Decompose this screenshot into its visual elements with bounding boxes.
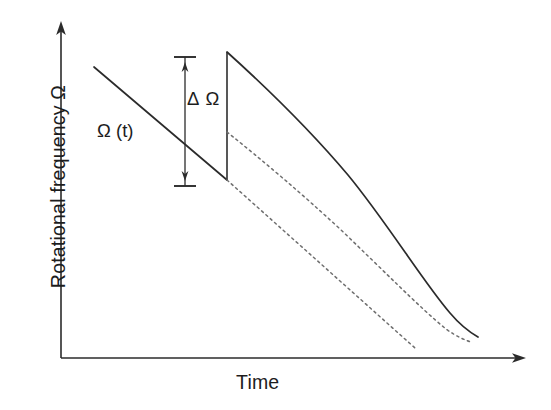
pre-glitch-extrapolation-dashed <box>227 180 415 348</box>
pulsar-glitch-figure: Rotational frequency Ω Time Ω (t) Δ Ω <box>0 0 551 410</box>
delta-omega-label: Δ Ω <box>187 88 220 110</box>
x-axis-label: Time <box>236 371 279 394</box>
post-glitch-spin-down-curve <box>227 52 478 337</box>
plot-canvas <box>0 0 551 410</box>
y-axis-label: Rotational frequency Ω <box>47 37 70 337</box>
delta-omega-marker <box>174 57 196 186</box>
omega-of-t-label: Ω (t) <box>97 120 133 142</box>
x-axis <box>61 353 526 363</box>
post-glitch-asymptote-dashed <box>227 132 471 342</box>
